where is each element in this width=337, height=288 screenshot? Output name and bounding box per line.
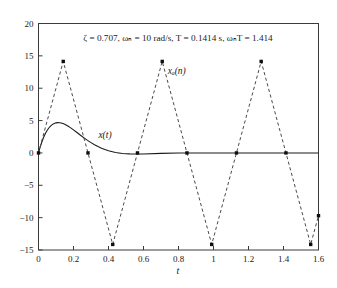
x-tick-label: 1 — [211, 254, 216, 264]
x-axis-title: t — [177, 265, 180, 276]
y-tick-label: −5 — [24, 180, 34, 190]
x-tick-label: 0.6 — [138, 254, 150, 264]
x-tick-label: 1.2 — [243, 254, 254, 264]
sample-point-marker — [185, 151, 188, 154]
x-tick-label: 0.2 — [68, 254, 79, 264]
y-tick-label: −10 — [19, 213, 34, 223]
sample-point-marker — [161, 60, 164, 63]
y-tick-label: 10 — [25, 83, 35, 93]
sample-point-marker — [210, 243, 213, 246]
sample-point-marker — [284, 151, 287, 154]
figure-background — [0, 0, 337, 288]
y-tick-label: 15 — [25, 51, 35, 61]
x-tick-label: 1.6 — [313, 254, 325, 264]
x-tick-label: 0.4 — [103, 254, 115, 264]
continuous-response-label: x(t) — [97, 130, 111, 141]
x-tick-label: 1.4 — [278, 254, 290, 264]
sample-point-marker — [260, 60, 263, 63]
sample-point-marker — [317, 214, 320, 217]
sample-point-marker — [309, 243, 312, 246]
sampled-response-label: xₐ(n) — [167, 66, 186, 77]
sample-point-marker — [111, 243, 114, 246]
x-tick-label: 0.8 — [173, 254, 185, 264]
sample-point-marker — [136, 151, 139, 154]
plot-title: ζ = 0.707, ωₙ = 10 rad/s, T = 0.1414 s, … — [83, 33, 273, 43]
figure-container: −15−10−505101520 00.20.40.60.811.21.41.6… — [0, 0, 337, 288]
y-tick-label: 5 — [29, 116, 34, 126]
sample-point-marker — [62, 60, 65, 63]
x-tick-label: 0 — [36, 254, 41, 264]
sample-point-marker — [86, 151, 89, 154]
y-tick-label: 0 — [29, 148, 34, 158]
y-tick-label: 20 — [25, 19, 35, 29]
sample-point-marker — [37, 151, 40, 154]
y-tick-label: −15 — [19, 245, 34, 255]
sample-point-marker — [235, 151, 238, 154]
chart-svg: −15−10−505101520 00.20.40.60.811.21.41.6… — [0, 0, 337, 288]
